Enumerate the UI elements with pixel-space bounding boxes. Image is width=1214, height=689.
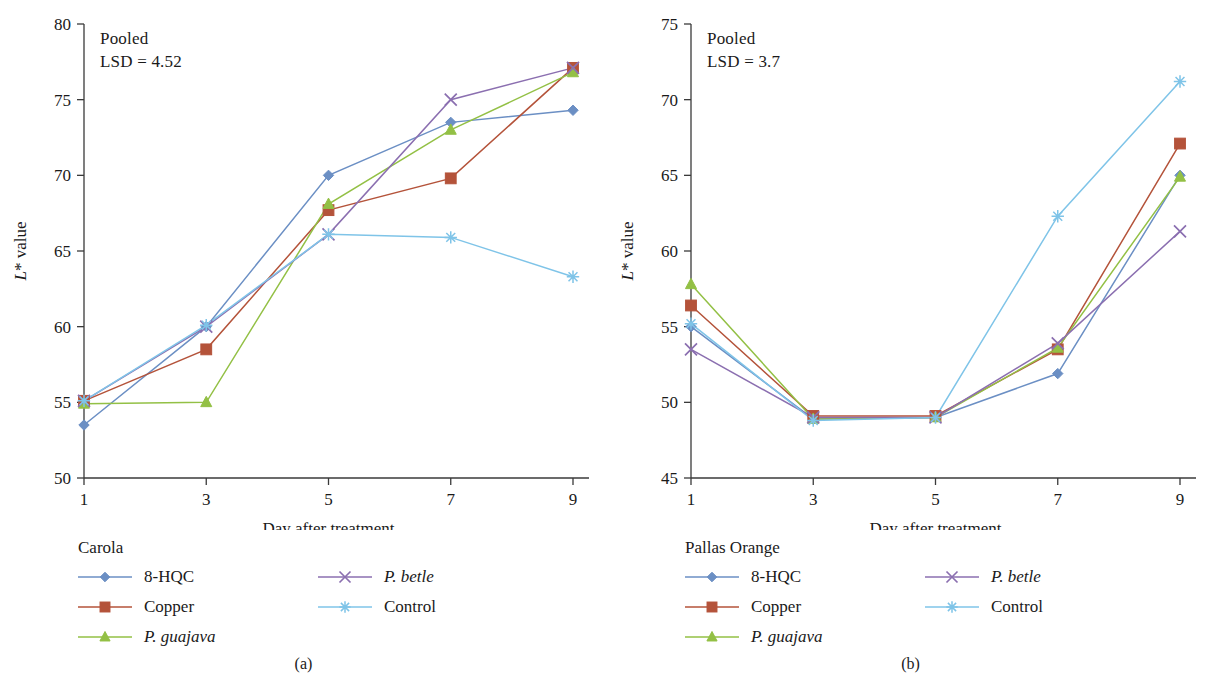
marker-square	[445, 173, 456, 184]
series-line	[84, 110, 573, 425]
y-tick-label: 55	[54, 393, 71, 412]
legend-item-copper[interactable]: Copper	[78, 592, 215, 622]
legend-marker-diamond-icon	[78, 569, 132, 585]
x-axis-title: Day after treatment	[869, 519, 1001, 530]
marker-asterisk	[929, 411, 941, 423]
annotation-lsd: LSD = 3.7	[707, 51, 780, 74]
x-tick-label: 9	[569, 490, 578, 509]
series-line	[691, 82, 1180, 421]
x-tick-label: 1	[687, 490, 696, 509]
marker-asterisk	[445, 231, 457, 243]
x-axis-title: Day after treatment	[262, 519, 394, 530]
marker-triangle	[323, 198, 334, 208]
plot-area-b: 4550556065707513579Day after treatmentL*…	[607, 0, 1214, 530]
y-axis-title: L* value	[618, 221, 637, 281]
marker-square	[707, 602, 717, 612]
legend-label: 8-HQC	[751, 567, 801, 587]
marker-triangle	[707, 631, 717, 640]
legend-marker-x-icon	[318, 569, 372, 585]
figure-container: 5055606570758013579Day after treatmentL*…	[0, 0, 1214, 689]
marker-diamond	[707, 572, 717, 582]
series-line	[691, 231, 1180, 417]
legend-label: P. betle	[384, 567, 434, 587]
annotation-pooled: Pooled	[100, 28, 182, 51]
marker-asterisk	[685, 317, 697, 329]
marker-asterisk	[567, 271, 579, 283]
svg-text:L* value: L* value	[618, 221, 637, 281]
legend-label: P. guajava	[144, 627, 215, 647]
panel-b: 4550556065707513579Day after treatmentL*…	[607, 0, 1214, 689]
y-tick-label: 50	[661, 393, 678, 412]
legend-item-p-guajava[interactable]: P. guajava	[78, 622, 215, 652]
legend-column-2: P. betleControl	[925, 562, 1043, 622]
legend-marker-asterisk-icon	[925, 599, 979, 615]
x-tick-label: 3	[809, 490, 818, 509]
y-tick-label: 70	[54, 166, 71, 185]
marker-diamond	[100, 572, 110, 582]
legend-item-p-guajava[interactable]: P. guajava	[685, 622, 822, 652]
marker-diamond	[568, 105, 578, 115]
marker-square	[201, 344, 212, 355]
marker-x	[1174, 225, 1186, 237]
legend-title: Pallas Orange	[685, 538, 780, 558]
legend-label: P. betle	[991, 567, 1041, 587]
marker-asterisk	[78, 395, 90, 407]
y-tick-label: 60	[54, 318, 71, 337]
x-tick-label: 7	[1054, 490, 1063, 509]
y-tick-label: 50	[54, 469, 71, 488]
annotation-lsd: LSD = 4.52	[100, 51, 182, 74]
marker-triangle	[685, 278, 696, 288]
legend-title: Carola	[78, 538, 123, 558]
marker-diamond	[1053, 368, 1063, 378]
marker-asterisk	[1052, 210, 1064, 222]
legend-marker-square-icon	[78, 599, 132, 615]
x-tick-label: 9	[1176, 490, 1185, 509]
legend-label: Copper	[144, 597, 194, 617]
series-line	[84, 234, 573, 400]
y-tick-label: 60	[661, 242, 678, 261]
legend-label: P. guajava	[751, 627, 822, 647]
legend-label: Control	[991, 597, 1043, 617]
legend-item-p-betle[interactable]: P. betle	[925, 562, 1043, 592]
x-tick-label: 7	[447, 490, 456, 509]
marker-triangle	[445, 124, 456, 134]
legend-item-8-hqc[interactable]: 8-HQC	[685, 562, 822, 592]
y-tick-label: 75	[54, 91, 71, 110]
legend-column-2: P. betleControl	[318, 562, 436, 622]
chart-svg-b: 4550556065707513579Day after treatmentL*…	[607, 0, 1214, 530]
annotation-pooled: Pooled	[707, 28, 780, 51]
legend-a: Carola8-HQCCopperP. guajavaP. betleContr…	[0, 530, 607, 650]
marker-square	[1175, 138, 1186, 149]
marker-square	[100, 602, 110, 612]
marker-asterisk	[1174, 75, 1186, 87]
marker-asterisk	[946, 601, 957, 612]
pooled-lsd-annotation: PooledLSD = 3.7	[707, 28, 780, 74]
legend-b: Pallas Orange8-HQCCopperP. guajavaP. bet…	[607, 530, 1214, 650]
marker-asterisk	[807, 414, 819, 426]
subcaption-b: (b)	[607, 655, 1214, 673]
marker-triangle	[100, 631, 110, 640]
svg-text:L* value: L* value	[11, 221, 30, 281]
marker-asterisk	[339, 601, 350, 612]
legend-item-control[interactable]: Control	[925, 592, 1043, 622]
panel-a: 5055606570758013579Day after treatmentL*…	[0, 0, 607, 689]
y-tick-label: 70	[661, 91, 678, 110]
legend-column-1: 8-HQCCopperP. guajava	[78, 562, 215, 652]
y-tick-label: 75	[661, 15, 678, 34]
legend-column-1: 8-HQCCopperP. guajava	[685, 562, 822, 652]
legend-item-copper[interactable]: Copper	[685, 592, 822, 622]
y-tick-label: 80	[54, 15, 71, 34]
y-tick-label: 65	[54, 242, 71, 261]
x-tick-label: 5	[324, 490, 333, 509]
legend-item-8-hqc[interactable]: 8-HQC	[78, 562, 215, 592]
plot-area-a: 5055606570758013579Day after treatmentL*…	[0, 0, 607, 530]
y-tick-label: 55	[661, 318, 678, 337]
legend-item-control[interactable]: Control	[318, 592, 436, 622]
legend-marker-triangle-icon	[78, 629, 132, 645]
legend-item-p-betle[interactable]: P. betle	[318, 562, 436, 592]
legend-marker-asterisk-icon	[318, 599, 372, 615]
y-tick-label: 45	[661, 469, 678, 488]
marker-square	[686, 300, 697, 311]
legend-label: Copper	[751, 597, 801, 617]
legend-label: 8-HQC	[144, 567, 194, 587]
